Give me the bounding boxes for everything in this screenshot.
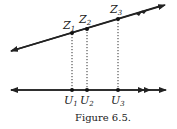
point-label-z2: Z2 <box>78 13 92 27</box>
double-arrow-icon <box>138 87 151 93</box>
point-label-u3: U3 <box>111 94 125 108</box>
figure-caption: Figure 6.5. <box>75 112 131 123</box>
point-label-z3: Z3 <box>109 3 123 17</box>
figure-diagram: Z1 Z2 Z3 U1 U2 U3 Figure 6.5. <box>0 0 177 129</box>
point-label-u2: U2 <box>80 94 94 108</box>
point-label-z1: Z1 <box>62 19 75 33</box>
point-label-u1: U1 <box>64 94 78 108</box>
points <box>70 17 120 92</box>
